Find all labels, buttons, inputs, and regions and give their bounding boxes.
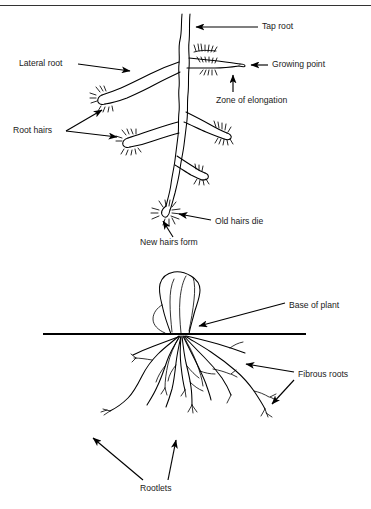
fibrous-root-6-branch-a (213, 369, 230, 374)
leader-root-hairs-upper (66, 110, 102, 131)
fibrous-root-system-drawing (43, 272, 306, 417)
lateral-root-upper-tip (98, 95, 105, 104)
fibrous-root-11-tip-b (165, 388, 167, 395)
fibrous-root-11 (165, 337, 179, 388)
label-new-hairs-form: New hairs form (140, 237, 198, 247)
root-hair-tuft-lateral-lower (116, 129, 141, 155)
label-old-hairs-die: Old hairs die (215, 216, 263, 226)
taproot-upper-right-branch-lower (187, 66, 239, 68)
plant-base-fold-mid (180, 276, 186, 333)
root-hair-tuft-upper-a (194, 44, 217, 52)
root-hair-tuft-right-lateral (214, 121, 233, 145)
leader-rootlets-left (93, 438, 143, 480)
fibrous-root-7-branch-c (270, 397, 276, 400)
lateral-root-upper-bottom (105, 72, 180, 104)
label-lateral-root: Lateral root (19, 58, 63, 68)
label-fibrous-roots: Fibrous roots (298, 369, 348, 379)
label-tap-root: Tap root (262, 21, 294, 31)
fibrous-root-6-branch-c (231, 374, 237, 377)
fibrous-leaders (93, 303, 294, 480)
root-hair-tuft-lateral-upper (90, 86, 113, 112)
diagram-canvas: Tap root Growing point Zone of elongatio… (0, 0, 371, 509)
plant-base-fold-left (170, 279, 174, 332)
rootlet-right-lower-top (177, 156, 205, 173)
lateral-root-right-top (186, 112, 227, 133)
leader-fibrous-roots-upper (246, 364, 294, 372)
label-root-hairs: Root hairs (13, 125, 52, 135)
root-hair-tuft-right-rootlet (194, 164, 209, 185)
fibrous-root-6-tip (227, 395, 231, 403)
fibrous-root-4-tip-a (188, 405, 192, 412)
fibrous-root-5-branch (200, 371, 215, 374)
leader-old-hairs-die (179, 214, 211, 220)
fibrous-root-1-branch-a (134, 358, 152, 360)
root-systems-figure: Tap root Growing point Zone of elongatio… (0, 0, 371, 509)
leader-fibrous-roots-lower (272, 380, 294, 404)
leader-root-hairs-lower (66, 131, 117, 137)
leader-base-of-plant (199, 303, 285, 326)
taproot-system-drawing (90, 14, 245, 226)
growing-point-tip (239, 64, 245, 67)
fibrous-root-7-tip-a (261, 409, 265, 416)
label-base-of-plant: Base of plant (289, 300, 340, 310)
taproot-tip (162, 206, 170, 217)
fibrous-root-1-tip-c (101, 410, 107, 412)
taproot-leaders (66, 27, 268, 237)
root-hair-tuft-taproot-tip (151, 200, 181, 226)
fibrous-root-10-tip-a (181, 390, 185, 396)
label-rootlets: Rootlets (140, 483, 172, 493)
fibrous-root-11-tip-a (161, 388, 165, 394)
fibrous-root-1-tip-b (104, 411, 110, 415)
fibrous-roots-bundle (101, 336, 276, 417)
rootlet-right-lower-tip (202, 173, 208, 180)
lateral-root-lower-tip (123, 138, 130, 147)
taproot-main-stem-left (166, 14, 182, 206)
label-growing-point: Growing point (272, 59, 326, 69)
leader-lateral-root (78, 64, 130, 71)
fibrous-root-1-branch-c (132, 358, 136, 362)
fibrous-root-7-branch-b (270, 394, 276, 397)
fibrous-root-4-branch-b (190, 382, 203, 391)
taproot-upper-right-branch (189, 58, 240, 64)
label-zone-of-elongation: Zone of elongation (216, 95, 287, 105)
leader-rootlets-right (168, 440, 176, 480)
fibrous-root-8-branch (230, 342, 243, 348)
leader-new-hairs-form (163, 221, 173, 237)
fibrous-root-10-tip-b (185, 390, 186, 397)
